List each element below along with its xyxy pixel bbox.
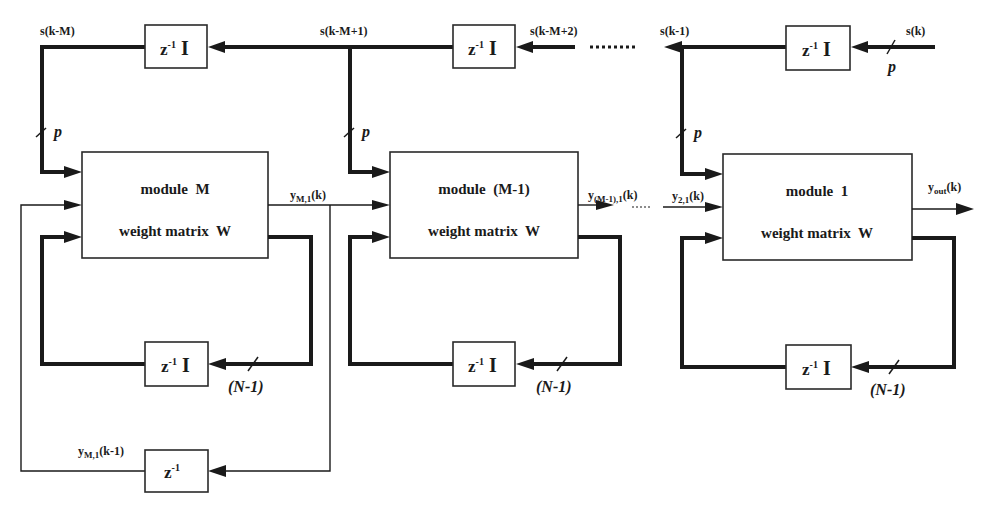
signal-y-M-1: y(M-1),1(k) [578,188,652,210]
delay-fb-1: z-1I [786,345,851,389]
svg-text:p: p [360,123,370,141]
module-M-title: module M [140,181,209,197]
label-s-k-M-plus-1: s(k-M+1) [320,24,368,38]
bus-drop-module-1: p [676,47,723,180]
svg-text:p: p [692,124,702,142]
bus-drop-module-M: p [36,47,82,178]
label-s-k-M-plus-2: s(k-M+2) [530,24,578,38]
svg-text:(N-1): (N-1) [870,381,906,399]
delay-top-1: z-1I [145,25,207,68]
delay-fb-M: z-1I [145,342,208,386]
module-M: module M weight matrix W [82,152,268,258]
svg-text:y(M-1),1(k): y(M-1),1(k) [588,188,637,204]
label-s-k: s(k) [906,24,925,38]
svg-text:yM,1(k): yM,1(k) [290,188,326,204]
svg-text:yout(k): yout(k) [928,180,961,196]
arrow-into-delay-top-3 [851,41,868,53]
module-M-minus-1: module (M-1) weight matrix W [390,152,578,258]
svg-text:(N-1): (N-1) [228,378,264,396]
svg-text:yM,1(k-1): yM,1(k-1) [78,444,124,460]
label-s-k-M: s(k-M) [40,24,75,38]
module-1: module 1 weight matrix W [723,154,912,260]
bus-drop-module-M-1: p [344,47,390,178]
svg-text:y2,1(k): y2,1(k) [672,189,704,205]
delay-top-2: z-1I [453,25,515,68]
module-M-weights: weight matrix W [119,223,231,239]
module-1-title: module 1 [786,183,849,199]
label-s-k-1: s(k-1) [660,24,689,38]
svg-text:p: p [52,123,62,141]
delay-outer: z-1 [145,450,208,492]
arrow-into-delay-top-1 [208,41,225,53]
signal-y-M1: yM,1(k) [268,188,390,210]
signal-y-out: yout(k) [912,180,974,215]
delay-fb-M-1: z-1I [453,342,515,386]
bus-width-label-p-input: p [886,58,896,76]
arrow-s-k-1-left [664,41,682,53]
svg-text:(N-1): (N-1) [536,378,572,396]
arrow-into-delay-top-2 [516,41,533,53]
module-M-1-title: module (M-1) [438,181,530,198]
delay-top-3: z-1I [786,26,850,70]
pipelined-rnn-diagram: z-1I z-1I z-1I s(k-M) s(k-M+1) s(k-M+2) … [0,0,989,510]
signal-y-21: y2,1(k) [663,189,723,212]
module-M-1-weights: weight matrix W [428,223,540,239]
module-1-weights: weight matrix W [761,225,873,241]
